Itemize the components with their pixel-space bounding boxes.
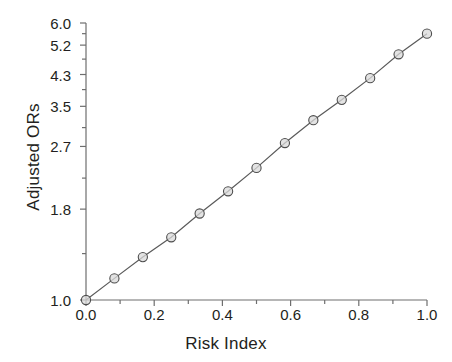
axis-lines xyxy=(86,23,427,300)
chart-figure: Adjusted ORs Risk Index 1.01.82.73.54.35… xyxy=(0,0,452,362)
plot-area xyxy=(0,0,452,362)
